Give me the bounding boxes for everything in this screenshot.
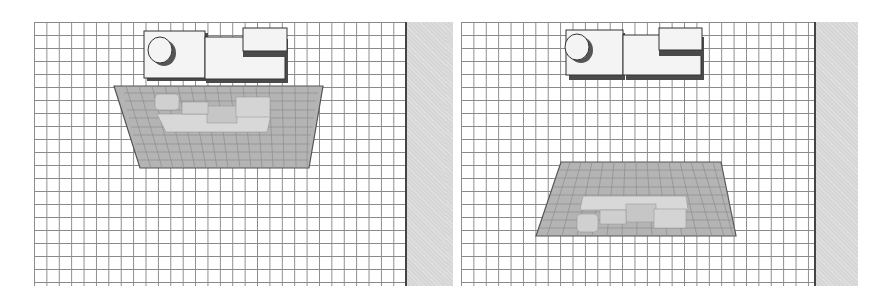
right-viewport [0, 0, 892, 297]
right-physical-object [565, 28, 704, 80]
right-cylinder [565, 34, 589, 60]
right-scene [0, 0, 892, 297]
right-projection-plane [536, 162, 736, 236]
